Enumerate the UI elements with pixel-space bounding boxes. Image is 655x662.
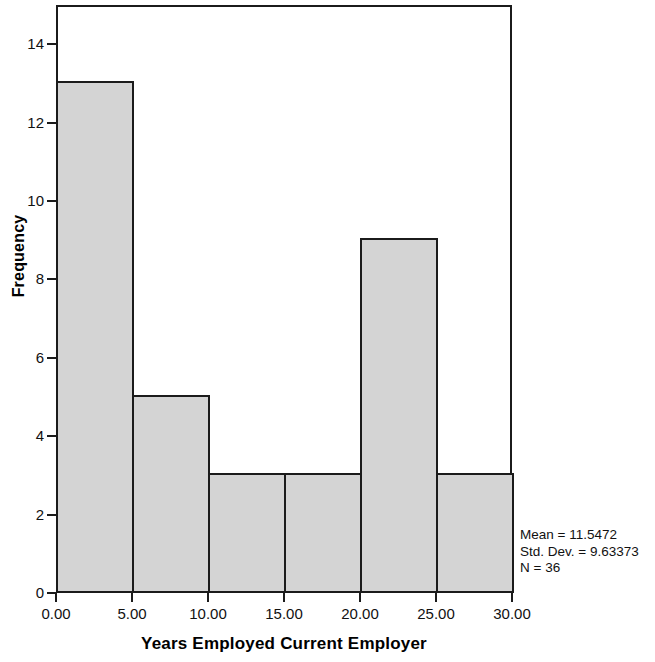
stats-std-dev: Std. Dev. = 9.63373 (520, 544, 639, 561)
stats-n: N = 36 (520, 560, 639, 577)
y-tick-label: 8 (36, 269, 44, 289)
histogram-bar (132, 395, 210, 593)
x-axis-title: Years Employed Current Employer (56, 634, 512, 654)
y-tick-mark (47, 43, 56, 45)
y-axis: 02468101214 (0, 0, 56, 662)
y-tick-mark (47, 122, 56, 124)
y-tick-label: 14 (27, 34, 44, 54)
y-tick-mark (47, 200, 56, 202)
histogram-bar (56, 81, 134, 593)
x-tick-label: 15.00 (250, 605, 318, 622)
x-tick-mark (131, 593, 133, 602)
y-tick-label: 4 (36, 426, 44, 446)
histogram-bar (360, 238, 438, 593)
x-tick-label: 30.00 (478, 605, 546, 622)
x-tick-mark (55, 593, 57, 602)
x-tick-label: 0.00 (22, 605, 90, 622)
y-axis-title: Frequency (10, 191, 28, 321)
y-tick-label: 10 (27, 191, 44, 211)
x-tick-mark (283, 593, 285, 602)
histogram-bar (208, 473, 286, 593)
histogram-bar (436, 473, 514, 593)
y-tick-label: 2 (36, 505, 44, 525)
x-tick-mark (435, 593, 437, 602)
x-tick-mark (359, 593, 361, 602)
x-tick-mark (511, 593, 513, 602)
y-tick-label: 6 (36, 348, 44, 368)
y-tick-mark (47, 357, 56, 359)
y-tick-label: 0 (36, 583, 44, 603)
bar-series (56, 5, 512, 593)
y-tick-mark (47, 278, 56, 280)
stats-annotation: Mean = 11.5472 Std. Dev. = 9.63373 N = 3… (520, 527, 639, 577)
stats-mean: Mean = 11.5472 (520, 527, 639, 544)
histogram-bar (284, 473, 362, 593)
y-tick-mark (47, 514, 56, 516)
histogram-chart: 02468101214 Frequency 0.005.0010.0015.00… (0, 0, 655, 662)
x-tick-mark (207, 593, 209, 602)
y-tick-mark (47, 435, 56, 437)
x-tick-label: 10.00 (174, 605, 242, 622)
x-tick-label: 5.00 (98, 605, 166, 622)
x-tick-label: 20.00 (326, 605, 394, 622)
x-tick-label: 25.00 (402, 605, 470, 622)
y-tick-label: 12 (27, 113, 44, 133)
